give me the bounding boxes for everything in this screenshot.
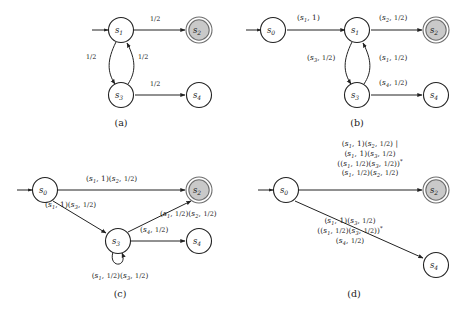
panel-a-graph: s1 s2 s3 s4 [92,17,212,108]
panel-d-edge-label-s0-s4-line2: ((s1, 1/2)(s3, 1/2))* [282,226,418,236]
panel-d-edge-label-s0-s2-line1: (s1, 1)(s2, 1/2) | [302,139,438,149]
panel-d-edge-label-s0-s2-line2: (s1, 1)(s3, 1/2) [302,149,438,159]
panel-d-edge-label-s0-s2-line4: (s1, 1/2)(s2, 1/2) [302,168,438,178]
panel-c-caption: (c) [100,288,140,299]
panel-a-edge-s3-s1 [127,43,134,84]
panel-b-edge-label-s0-s1: (s1, 1) [297,13,320,22]
panel-b-graph: s0 s1 s2 s3 s4 [246,17,449,108]
panel-a-edge-label-s3-s1: 1/2 [138,52,148,62]
panel-b-edge-label-s3-s4: (s4, 1/2) [379,78,407,88]
panel-d-edge-label-s0-s4: (s1, 1)(s3, 1/2) ((s1, 1/2)(s3, 1/2))* (… [282,216,418,245]
panel-b-edge-label-s3-s1: (s1, 1/2) [379,53,407,63]
panel-b-edge-label-s1-s3: (s3, 1/2) [307,53,335,63]
panel-c-edge-label-s0-s3: (s1, 1)(s3, 1/2) [45,200,96,210]
panel-c-edge-label-s0-s2: (s1, 1)(s2, 1/2) [86,174,137,184]
panel-b-edge-label-s1-s2: (s2, 1/2) [379,13,407,23]
panel-c-graph: s0 s2 s3 s4 [17,177,212,264]
panel-a-edge-label-s1-s3: 1/2 [86,52,96,62]
panel-d-edge-label-s0-s2-line3: ((s1, 1/2)(s3, 1/2))* [302,159,438,169]
figure-automata-transformation: s1 s2 s3 s4 s0 s1 s2 s3 [0,0,472,318]
panel-a-edge-label-s1-s2: 1/2 [150,14,160,24]
panel-c-edge-label-s3-selfloop: (s1, 1/2)(s3, 1/2) [70,271,170,281]
panel-b-edge-s1-s3 [345,42,352,84]
panel-a-edge-label-s3-s4: 1/2 [150,79,160,89]
panel-a-edge-s1-s3 [109,42,116,84]
panel-b-edge-s3-s1 [363,43,370,84]
panel-b-caption: (b) [337,117,377,128]
panel-d-caption: (d) [334,288,374,299]
panel-d-edge-label-s0-s4-line3: (s4, 1/2) [282,236,418,246]
panel-c-edge-label-s3-s4: (s4, 1/2) [140,225,168,235]
panel-a-caption: (a) [101,117,141,128]
panel-d-edge-label-s0-s4-line1: (s1, 1)(s3, 1/2) [282,216,418,226]
panel-c-edge-label-s3-s2: (s1, 1/2)(s2, 1/2) [160,209,217,219]
panel-d-edge-label-s0-s2: (s1, 1)(s2, 1/2) | (s1, 1)(s3, 1/2) ((s1… [302,139,438,178]
